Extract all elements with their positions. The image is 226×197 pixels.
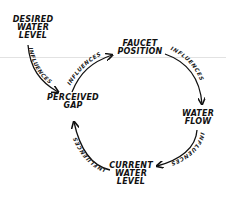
node-perceived-gap: PERCEIVED GAP	[46, 94, 100, 110]
node-line: FLOW	[178, 118, 218, 126]
edge-label: INFLUENCES	[28, 47, 54, 85]
svg-text:INFLUENCES: INFLUENCES	[28, 47, 54, 85]
edge-faucet-to-flow: INFLUENCES	[165, 45, 205, 104]
node-line: POSITION	[114, 48, 166, 56]
node-current-water-level: CURRENT WATER LEVEL	[108, 162, 154, 186]
edge-label: INFLUENCES	[170, 45, 205, 81]
node-line: GAP	[46, 102, 100, 110]
edge-flow-to-current: INFLUENCES	[157, 130, 206, 167]
edge-label: INFLUENCES	[66, 51, 102, 87]
node-desired-water-level: DESIRED WATER LEVEL	[12, 16, 54, 40]
svg-text:INFLUENCES: INFLUENCES	[66, 51, 102, 87]
edge-label: INFLUENCES	[72, 136, 106, 173]
svg-text:INFLUENCES: INFLUENCES	[72, 136, 106, 173]
edge-gap-to-faucet: INFLUENCES	[66, 51, 112, 92]
node-line: LEVEL	[12, 32, 54, 40]
edge-desired-to-gap: INFLUENCES	[28, 45, 58, 92]
node-faucet-position: FAUCET POSITION	[114, 40, 166, 56]
edge-current-to-gap: INFLUENCES	[72, 122, 110, 173]
svg-text:INFLUENCES: INFLUENCES	[170, 45, 205, 81]
node-water-flow: WATER FLOW	[178, 110, 218, 126]
causal-loop-diagram: INFLUENCES INFLUENCES INFLUENCES INFLUEN…	[0, 0, 226, 197]
node-line: LEVEL	[108, 178, 154, 186]
